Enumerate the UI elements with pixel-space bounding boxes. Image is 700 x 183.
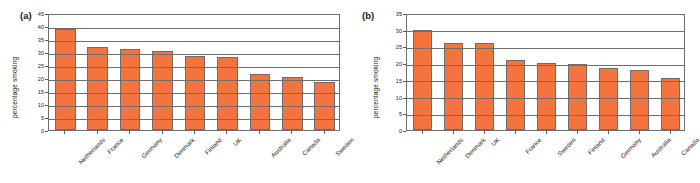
x-tick-mark	[129, 131, 130, 134]
x-tick-mark	[608, 131, 609, 134]
y-tick-mark	[45, 92, 48, 93]
gridline	[49, 119, 339, 120]
y-tick-label: 45	[29, 11, 44, 17]
y-tick-label: 15	[29, 89, 44, 95]
y-tick-mark	[45, 40, 48, 41]
bar-series-b	[407, 15, 684, 130]
y-tick-mark	[45, 105, 48, 106]
y-tick-label: 0	[29, 128, 44, 134]
y-tick-mark	[45, 118, 48, 119]
gridline	[407, 65, 684, 66]
y-axis-title-a: percentage smoking	[11, 57, 18, 118]
y-tick-mark	[45, 27, 48, 28]
y-tick-label: 10	[29, 102, 44, 108]
plot-area-b	[406, 14, 685, 131]
plot-area-a	[48, 14, 340, 131]
y-tick-label: 25	[387, 44, 402, 50]
chart-panel-b: (b) percentage smoking 05101520253035 Ne…	[348, 0, 696, 183]
y-tick-mark	[403, 114, 406, 115]
x-tick-mark	[194, 131, 195, 134]
gridline	[407, 98, 684, 99]
bar	[282, 77, 303, 130]
y-tick-mark	[403, 131, 406, 132]
gridline	[49, 106, 339, 107]
panel-label-b: (b)	[362, 10, 374, 21]
bar	[630, 70, 650, 130]
x-tick-mark	[97, 131, 98, 134]
y-tick-label: 30	[387, 28, 402, 34]
bar	[250, 74, 271, 130]
x-tick-label: France	[105, 136, 124, 155]
gridline	[49, 67, 339, 68]
bar	[599, 68, 619, 130]
y-tick-mark	[45, 66, 48, 67]
x-tick-mark	[577, 131, 578, 134]
x-tick-mark	[670, 131, 671, 134]
bar	[568, 64, 588, 130]
x-tick-label: France	[523, 136, 542, 155]
y-tick-mark	[45, 79, 48, 80]
y-tick-mark	[403, 64, 406, 65]
y-tick-mark	[403, 31, 406, 32]
x-tick-label: Australia	[649, 136, 672, 159]
gridline	[49, 80, 339, 81]
x-tick-mark	[546, 131, 547, 134]
gridline	[407, 31, 684, 32]
y-tick-label: 20	[29, 76, 44, 82]
bar	[661, 78, 681, 130]
gridline	[49, 93, 339, 94]
x-tick-mark	[259, 131, 260, 134]
x-tick-label: Finland	[586, 136, 606, 156]
x-tick-mark	[515, 131, 516, 134]
x-tick-mark	[639, 131, 640, 134]
bar-series-a	[49, 15, 339, 130]
y-tick-mark	[45, 14, 48, 15]
gridline	[49, 41, 339, 42]
x-tick-label: Denmark	[463, 136, 486, 159]
x-tick-label: UK	[232, 136, 243, 147]
gridline	[407, 81, 684, 82]
y-tick-label: 25	[29, 63, 44, 69]
y-tick-label: 5	[29, 115, 44, 121]
x-tick-mark	[453, 131, 454, 134]
x-tick-label: Finland	[203, 136, 223, 156]
x-tick-mark	[226, 131, 227, 134]
x-tick-label: Canada	[301, 136, 322, 157]
y-tick-label: 10	[387, 95, 402, 101]
y-tick-mark	[403, 14, 406, 15]
x-tick-mark	[291, 131, 292, 134]
y-tick-mark	[45, 131, 48, 132]
x-tick-label: UK	[489, 136, 500, 147]
y-tick-label: 35	[29, 37, 44, 43]
y-tick-label: 30	[29, 50, 44, 56]
x-tick-label: Australia	[269, 136, 292, 159]
x-tick-label: Denmark	[172, 136, 195, 159]
x-tick-label: Germany	[618, 136, 641, 159]
x-tick-mark	[162, 131, 163, 134]
x-tick-mark	[422, 131, 423, 134]
y-tick-mark	[403, 81, 406, 82]
y-tick-mark	[403, 98, 406, 99]
gridline	[49, 28, 339, 29]
y-tick-label: 5	[387, 111, 402, 117]
y-tick-label: 35	[387, 11, 402, 17]
x-tick-mark	[324, 131, 325, 134]
chart-panel-a: (a) percentage smoking 05101520253035404…	[0, 0, 348, 183]
gridline	[407, 115, 684, 116]
bar	[506, 60, 526, 130]
x-tick-mark	[484, 131, 485, 134]
y-tick-label: 20	[387, 61, 402, 67]
bar	[444, 43, 464, 130]
y-tick-label: 0	[387, 128, 402, 134]
gridline	[49, 54, 339, 55]
y-tick-mark	[403, 47, 406, 48]
gridline	[407, 48, 684, 49]
y-tick-label: 15	[387, 78, 402, 84]
y-tick-mark	[45, 53, 48, 54]
x-tick-label: Sweden	[555, 136, 576, 157]
x-tick-label: Canada	[679, 136, 700, 157]
bar	[475, 43, 495, 130]
x-tick-label: Germany	[140, 136, 163, 159]
y-axis-title-b: percentage smoking	[372, 57, 379, 118]
